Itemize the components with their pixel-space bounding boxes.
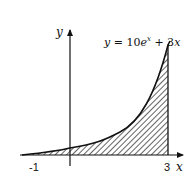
shaded-region bbox=[22, 45, 168, 155]
x-tick-minus-1: -1 bbox=[29, 161, 39, 173]
equation-label: y = 10ex + 3x bbox=[103, 35, 181, 49]
y-axis-label: y bbox=[55, 25, 63, 39]
area-diagram: y x -1 3 y = 10ex + 3x bbox=[0, 0, 196, 182]
x-tick-3: 3 bbox=[164, 161, 170, 173]
x-axis-label: x bbox=[176, 160, 183, 174]
